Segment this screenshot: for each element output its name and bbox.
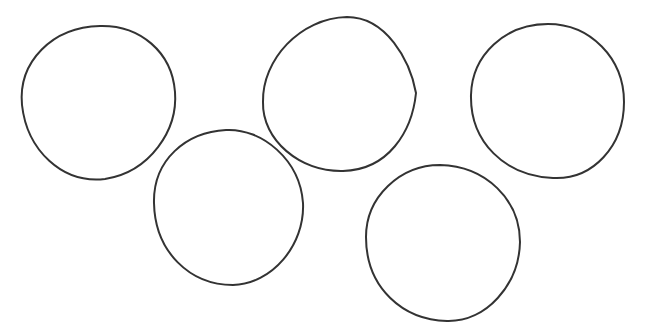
circle-4	[471, 24, 624, 178]
circle-1	[22, 26, 176, 180]
drawing-canvas	[0, 0, 645, 336]
circle-5	[366, 165, 520, 321]
circle-2	[154, 130, 303, 285]
circle-3	[263, 17, 416, 171]
